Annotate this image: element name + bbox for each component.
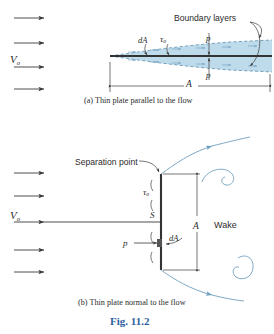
shear-layer-upper (161, 146, 212, 174)
wake-label: Wake (214, 221, 237, 230)
caption-panel-b: (b) Thin plate normal to the flow (78, 299, 186, 307)
area-element-label-a: dA (138, 36, 147, 45)
separated-shear-layers (161, 137, 250, 301)
figure-drawing (0, 0, 274, 334)
freestream-velocity-label-a: Vo (10, 54, 20, 66)
inflow-arrows-panel-b (14, 173, 160, 272)
figure-number: Fig. 11.2 (110, 316, 149, 327)
caption-panel-a: (a) Thin plate parallel to the flow (84, 97, 193, 105)
separation-point-leader (139, 161, 159, 172)
area-dimension-label-b: A (193, 222, 199, 232)
shear-layer-lower-tail (212, 295, 244, 301)
area-element-patch (157, 239, 162, 247)
area-element-label-b: dA (169, 234, 178, 243)
freestream-velocity-label-b: Vo (10, 210, 20, 222)
wall-shear-ticks-panel-b (151, 180, 153, 263)
stagnation-point-label: S (150, 211, 155, 220)
wall-shear-label-b: τo (143, 188, 149, 198)
separation-point-label: Separation point (75, 158, 138, 167)
shear-layer-upper-tail (212, 137, 250, 146)
area-dimension-label-a: A (186, 80, 192, 90)
vortex-upper (202, 169, 234, 185)
pressure-label-b: p (123, 239, 128, 248)
pressure-label-a-bottom: p (206, 71, 211, 80)
pressure-label-a-top: p (206, 34, 211, 43)
shear-layer-lower (161, 270, 212, 295)
wall-shear-label-a: τo (160, 35, 166, 45)
vortex-lower (233, 256, 253, 279)
boundary-layers-label: Boundary layers (174, 14, 236, 23)
figure-container: Vo Boundary layers dA τo p p A (a) Thin … (0, 0, 274, 334)
